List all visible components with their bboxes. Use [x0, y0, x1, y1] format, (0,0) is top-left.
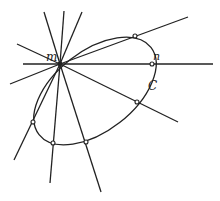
label-m: m — [46, 50, 57, 64]
line-7 — [60, 17, 188, 64]
point-marker — [84, 140, 88, 144]
label-n: n — [153, 50, 160, 63]
line-12 — [60, 64, 101, 192]
point-marker — [31, 120, 35, 124]
line-pencil — [10, 11, 213, 192]
point-marker — [51, 141, 55, 145]
point-marker — [135, 100, 139, 104]
label-c: C — [148, 79, 157, 93]
pencil-of-lines-diagram: m n C — [0, 0, 220, 201]
point-m-marker — [58, 62, 63, 67]
line-9 — [60, 64, 178, 122]
point-marker — [133, 34, 137, 38]
